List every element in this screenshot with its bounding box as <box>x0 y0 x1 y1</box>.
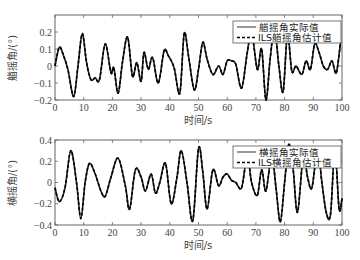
top-y-tick-label: 0 <box>47 61 52 72</box>
bottom-y-tick-label: −0.4 <box>34 220 52 231</box>
top-x-tick-label: 30 <box>136 102 146 113</box>
bottom-legend: 横摇角实际值 ILS横摇角估计值 <box>233 146 341 168</box>
bottom-y-tick-label: 0.4 <box>40 135 53 146</box>
top-chart: −0.2−0.100.10.2 0102030405060708090100 艏… <box>6 15 350 126</box>
bottom-chart: −0.4−0.200.20.4 0102030405060708090100 横… <box>6 135 350 252</box>
top-x-tick-label: 90 <box>308 102 318 113</box>
bottom-legend-estimate-label: ILS横摇角估计值 <box>258 157 332 168</box>
top-legend: 艏摇角实际值 ILS艏摇角估计值 <box>233 21 341 43</box>
top-x-tick-label: 50 <box>194 102 204 113</box>
top-y-tick-label: −0.1 <box>34 78 52 89</box>
top-x-axis-label: 时间/s <box>184 114 213 126</box>
bottom-x-tick-label: 0 <box>53 227 58 238</box>
top-x-tick-label: 100 <box>335 102 350 113</box>
bottom-x-tick-label: 70 <box>251 227 261 238</box>
bottom-x-tick-label: 100 <box>335 227 350 238</box>
bottom-y-tick-label: 0 <box>47 177 52 188</box>
bottom-x-tick-label: 60 <box>222 227 232 238</box>
top-y-tick-label: 0.2 <box>40 27 53 38</box>
bottom-x-tick-label: 20 <box>107 227 117 238</box>
top-x-tick-label: 20 <box>107 102 117 113</box>
top-x-tick-label: 10 <box>79 102 89 113</box>
top-y-tick-label: −0.2 <box>34 95 52 106</box>
bottom-y-tick-label: −0.2 <box>34 198 52 209</box>
bottom-x-tick-label: 90 <box>308 227 318 238</box>
top-x-tick-label: 0 <box>53 102 58 113</box>
top-y-axis-label: 艏摇角/(°) <box>6 35 18 81</box>
top-y-tick-label: 0.1 <box>40 44 53 55</box>
bottom-y-axis-label: 横摇角/(°) <box>6 160 18 206</box>
top-x-tick-label: 80 <box>280 102 290 113</box>
bottom-x-tick-label: 30 <box>136 227 146 238</box>
bottom-legend-actual-label: 横摇角实际值 <box>259 147 319 158</box>
top-x-tick-label: 60 <box>222 102 232 113</box>
figure-canvas: −0.2−0.100.10.2 0102030405060708090100 艏… <box>0 0 360 260</box>
bottom-x-axis-label: 时间/s <box>184 239 213 251</box>
bottom-x-tick-label: 40 <box>165 227 175 238</box>
bottom-x-tick-label: 50 <box>194 227 204 238</box>
top-legend-estimate-label: ILS艏摇角估计值 <box>258 32 332 43</box>
top-legend-actual-label: 艏摇角实际值 <box>259 22 319 33</box>
bottom-x-tick-label: 10 <box>79 227 89 238</box>
top-x-tick-label: 70 <box>251 102 261 113</box>
top-x-tick-label: 40 <box>165 102 175 113</box>
bottom-x-tick-label: 80 <box>280 227 290 238</box>
bottom-y-tick-label: 0.2 <box>40 156 53 167</box>
